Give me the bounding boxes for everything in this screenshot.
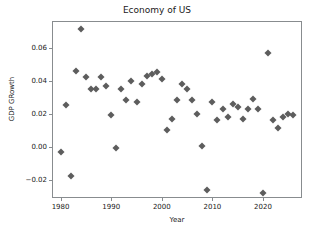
data-point [194, 110, 201, 117]
data-point [62, 102, 69, 109]
data-point [244, 105, 251, 112]
data-point [77, 26, 84, 33]
data-point [173, 97, 180, 104]
data-point [234, 103, 241, 110]
data-point [254, 105, 261, 112]
data-point [290, 112, 297, 119]
x-axis-tick-label: 2000 [153, 203, 171, 211]
data-point [219, 105, 226, 112]
y-axis-tick [49, 48, 53, 49]
data-point [133, 99, 140, 106]
data-point [67, 173, 74, 180]
x-axis-tick-label: 2010 [204, 203, 222, 211]
y-axis-tick [49, 180, 53, 181]
data-point [163, 127, 170, 134]
data-point [275, 125, 282, 132]
x-axis-tick [162, 197, 163, 201]
y-axis-tick [49, 114, 53, 115]
y-axis-tick-label: 0.02 [31, 110, 47, 118]
x-axis-tick [111, 197, 112, 201]
data-point [209, 99, 216, 106]
data-point [259, 189, 266, 196]
x-axis-tick-label: 1980 [52, 203, 70, 211]
data-point [189, 97, 196, 104]
x-axis-tick-label: 2020 [254, 203, 272, 211]
data-point [158, 75, 165, 82]
data-point [265, 49, 272, 56]
data-point [224, 113, 231, 120]
data-point [118, 85, 125, 92]
data-point [184, 85, 191, 92]
data-point [168, 115, 175, 122]
y-axis-tick [49, 147, 53, 148]
data-point [239, 115, 246, 122]
data-point [214, 117, 221, 124]
data-point [98, 74, 105, 81]
x-axis-tick [61, 197, 62, 201]
x-axis-tick-label: 1990 [102, 203, 120, 211]
chart-figure: Economy of US GDP GRowth −0.020.000.020.… [0, 0, 314, 235]
data-point [92, 85, 99, 92]
data-point [204, 186, 211, 193]
y-axis-tick-label: 0.04 [31, 77, 47, 85]
data-point [138, 80, 145, 87]
x-axis-tick [212, 197, 213, 201]
data-point [123, 97, 130, 104]
y-axis-tick-label: 0.06 [31, 44, 47, 52]
data-point [270, 117, 277, 124]
data-point [82, 74, 89, 81]
y-axis-label: GDP GRowth [8, 59, 16, 139]
data-point [128, 77, 135, 84]
data-point [72, 67, 79, 74]
data-point [108, 112, 115, 119]
plot-area: −0.020.000.020.040.061980199020002010202… [52, 21, 302, 198]
chart-title: Economy of US [0, 5, 314, 15]
y-axis-tick [49, 81, 53, 82]
y-axis-tick-label: −0.02 [26, 176, 47, 184]
x-axis-label: Year [52, 216, 302, 224]
data-point [103, 82, 110, 89]
y-axis-tick-label: 0.00 [31, 143, 47, 151]
data-point [57, 148, 64, 155]
data-point [113, 145, 120, 152]
data-point [249, 95, 256, 102]
x-axis-tick [263, 197, 264, 201]
data-point [199, 142, 206, 149]
